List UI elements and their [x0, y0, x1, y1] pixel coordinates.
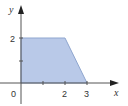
- x-tick-label-3: 3: [84, 89, 89, 99]
- x-tick-label-2: 2: [62, 89, 67, 99]
- x-axis-arrow-icon: [110, 80, 119, 86]
- x-axis-label: x: [113, 87, 119, 98]
- chart: y x 2 0 2 3: [0, 0, 128, 106]
- y-axis-arrow-icon: [18, 5, 24, 14]
- shaded-region: [21, 38, 87, 83]
- origin-label: 0: [11, 89, 16, 99]
- y-axis-label: y: [8, 4, 14, 15]
- y-tick-label-2: 2: [10, 34, 15, 44]
